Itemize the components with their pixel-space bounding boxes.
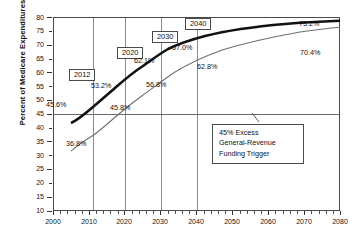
value-label-lower-2040: 62.8% [197, 63, 217, 70]
x-tick-mark [160, 211, 161, 215]
value-label-lower-2020: 45.8% [110, 104, 130, 111]
value-label-lower-2080: 70.4% [300, 49, 320, 56]
x-tick-label: 2060 [253, 218, 283, 225]
x-minor-tick-mark [283, 211, 284, 214]
year-box-2040: 2040 [185, 18, 211, 30]
x-minor-tick-mark [326, 211, 327, 214]
x-tick-mark [232, 211, 233, 215]
x-minor-tick-mark [225, 211, 226, 214]
x-tick-mark [304, 211, 305, 215]
x-minor-tick-mark [103, 211, 104, 214]
annotation-leader-line [252, 113, 259, 122]
x-minor-tick-mark [297, 211, 298, 214]
x-minor-tick-mark [311, 211, 312, 214]
x-tick-label: 2020 [109, 218, 139, 225]
x-minor-tick-mark [261, 211, 262, 214]
x-tick-mark [340, 211, 341, 215]
x-minor-tick-mark [110, 211, 111, 214]
x-tick-label: 2000 [38, 218, 68, 225]
x-tick-mark [268, 211, 269, 215]
value-label-upper-2012: 45.6% [46, 101, 66, 108]
value-label-upper-2020: 53.2% [91, 82, 111, 89]
value-label-upper-2080: 73.2% [299, 20, 319, 27]
x-minor-tick-mark [290, 211, 291, 214]
x-minor-tick-mark [275, 211, 276, 214]
x-minor-tick-mark [240, 211, 241, 214]
year-box-2012: 2012 [69, 69, 95, 81]
x-minor-tick-mark [96, 211, 97, 214]
x-minor-tick-mark [189, 211, 190, 214]
annotation-line-3: Funding Trigger [219, 149, 297, 159]
x-tick-mark [196, 211, 197, 215]
x-tick-mark [53, 211, 54, 215]
value-label-upper-2030: 62.1% [134, 57, 154, 64]
x-minor-tick-mark [82, 211, 83, 214]
year-box-2030: 2030 [152, 31, 178, 43]
x-minor-tick-mark [60, 211, 61, 214]
x-minor-tick-mark [139, 211, 140, 214]
x-tick-label: 2040 [181, 218, 211, 225]
chart-container: Percent of Medicare Expenditures 80 75 7… [0, 0, 355, 246]
x-tick-mark [124, 211, 125, 215]
x-minor-tick-mark [118, 211, 119, 214]
funding-trigger-annotation: 45% Excess General-Revenue Funding Trigg… [212, 124, 304, 164]
annotation-line-1: 45% Excess [219, 128, 297, 138]
value-label-lower-2012: 36.8% [66, 140, 86, 147]
x-tick-label: 2050 [217, 218, 247, 225]
x-minor-tick-mark [67, 211, 68, 214]
x-minor-tick-mark [218, 211, 219, 214]
x-minor-tick-mark [319, 211, 320, 214]
x-minor-tick-mark [168, 211, 169, 214]
x-minor-tick-mark [247, 211, 248, 214]
x-tick-label: 2080 [325, 218, 355, 225]
x-tick-mark [89, 211, 90, 215]
x-tick-label: 2010 [74, 218, 104, 225]
x-minor-tick-mark [175, 211, 176, 214]
x-minor-tick-mark [146, 211, 147, 214]
value-label-lower-2030: 56.8% [146, 81, 166, 88]
annotation-line-2: General-Revenue [219, 138, 297, 148]
x-minor-tick-mark [132, 211, 133, 214]
x-minor-tick-mark [182, 211, 183, 214]
x-tick-label: 2070 [289, 218, 319, 225]
x-minor-tick-mark [254, 211, 255, 214]
x-minor-tick-mark [211, 211, 212, 214]
x-minor-tick-mark [153, 211, 154, 214]
x-tick-label: 2030 [145, 218, 175, 225]
value-label-upper-2040: 67.0% [172, 44, 192, 51]
x-minor-tick-mark [333, 211, 334, 214]
x-minor-tick-mark [75, 211, 76, 214]
x-minor-tick-mark [204, 211, 205, 214]
